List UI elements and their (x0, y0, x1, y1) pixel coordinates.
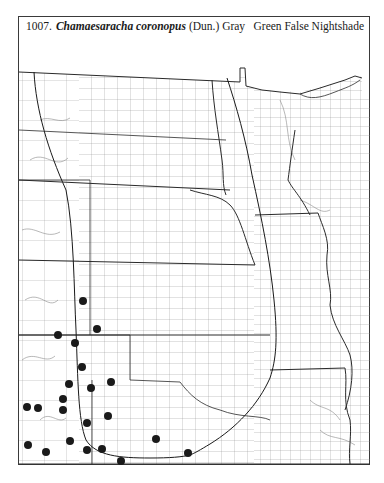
occurrence-dot (78, 363, 86, 371)
occurrence-dot (71, 339, 79, 347)
occurrence-dot (184, 449, 192, 457)
occurrence-dot (42, 448, 50, 456)
occurrence-dot (66, 437, 74, 445)
occurrence-dot (83, 419, 91, 427)
distribution-map (0, 0, 384, 483)
occurrence-dot (83, 446, 91, 454)
occurrence-dot (54, 331, 62, 339)
occurrence-dot (107, 378, 115, 386)
occurrence-dot (117, 457, 125, 465)
occurrence-dot (59, 395, 67, 403)
occurrence-dot (93, 325, 101, 333)
occurrence-dot (65, 380, 73, 388)
occurrence-dot (152, 435, 160, 443)
occurrence-dot (23, 403, 31, 411)
occurrence-dot (34, 404, 42, 412)
occurrence-dot (79, 297, 87, 305)
occurrence-dot (24, 441, 32, 449)
occurrence-dot (104, 412, 112, 420)
occurrence-dot (98, 445, 106, 453)
occurrence-dot (59, 406, 67, 414)
county-grid (19, 70, 374, 465)
occurrence-dot (87, 384, 95, 392)
